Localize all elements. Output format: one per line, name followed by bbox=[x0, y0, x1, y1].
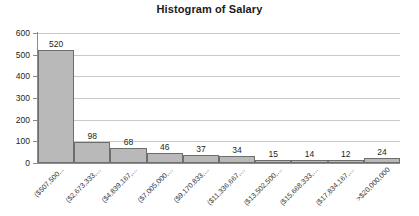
y-axis-tick-label: 400 bbox=[0, 72, 30, 80]
histogram-bar bbox=[255, 160, 291, 163]
bar-value-label: 34 bbox=[219, 146, 255, 155]
histogram-bar bbox=[183, 155, 219, 163]
bar-value-label: 12 bbox=[328, 150, 364, 159]
plot-area: 520986846373415141224 bbox=[38, 33, 400, 163]
y-axis-tick-label: 600 bbox=[0, 29, 30, 37]
histogram-bar bbox=[328, 160, 364, 163]
bar-value-label: 520 bbox=[38, 40, 74, 49]
histogram-bar bbox=[110, 148, 146, 163]
bar-value-label: 14 bbox=[291, 150, 327, 159]
gridline-300 bbox=[38, 98, 400, 99]
bar-value-label: 98 bbox=[74, 132, 110, 141]
histogram-bar bbox=[364, 158, 400, 163]
bar-value-label: 24 bbox=[364, 148, 400, 157]
y-axis-tick-label: 100 bbox=[0, 137, 30, 145]
histogram-chart: Histogram of Salary 6005004003002001000 … bbox=[0, 0, 419, 216]
bar-value-label: 46 bbox=[147, 143, 183, 152]
y-axis-tick-label: 0 bbox=[0, 159, 30, 167]
gridline-200 bbox=[38, 120, 400, 121]
y-axis-tick-label: 500 bbox=[0, 51, 30, 59]
gridline-600 bbox=[38, 33, 400, 34]
histogram-bar bbox=[219, 156, 255, 163]
bar-value-label: 68 bbox=[110, 138, 146, 147]
gridline-400 bbox=[38, 76, 400, 77]
gridline-500 bbox=[38, 55, 400, 56]
bar-value-label: 15 bbox=[255, 150, 291, 159]
bar-value-label: 37 bbox=[183, 145, 219, 154]
histogram-bar bbox=[291, 160, 327, 163]
histogram-bar bbox=[38, 50, 74, 163]
histogram-bar bbox=[74, 142, 110, 163]
gridline-0 bbox=[38, 163, 400, 164]
histogram-bar bbox=[147, 153, 183, 163]
y-axis-tick-label: 200 bbox=[0, 116, 30, 124]
chart-title: Histogram of Salary bbox=[0, 3, 419, 15]
y-axis-tick-label: 300 bbox=[0, 94, 30, 102]
